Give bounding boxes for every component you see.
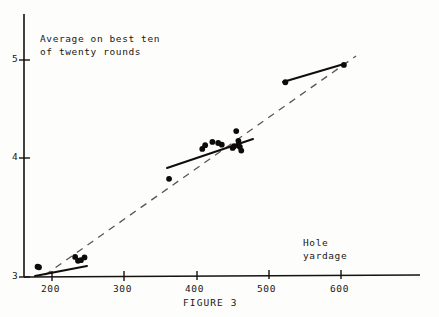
data-point xyxy=(219,142,225,148)
figure-container: 5 4 3 200 300 400 500 600 Average on bes… xyxy=(0,0,439,317)
y-tick-label-5: 5 xyxy=(12,53,18,66)
data-point xyxy=(166,176,172,182)
data-point xyxy=(233,128,239,134)
data-points-layer xyxy=(35,62,347,270)
x-tick-label-400: 400 xyxy=(185,283,204,296)
x-tick-label-500: 500 xyxy=(257,283,276,296)
y-tick-label-3: 3 xyxy=(12,270,18,283)
data-point xyxy=(282,79,288,85)
x-tick-label-300: 300 xyxy=(113,283,132,296)
figure-caption: FIGURE 3 xyxy=(183,297,238,310)
y-axis-title-line2: of twenty rounds xyxy=(40,46,141,57)
data-point xyxy=(210,139,216,145)
x-tick-label-600: 600 xyxy=(330,283,349,296)
data-point xyxy=(341,62,347,68)
x-axis-title-line2: yardage xyxy=(303,250,347,261)
x-axis-title-line1: Hole xyxy=(303,237,328,248)
y-axis-title: Average on best tenof twenty rounds xyxy=(40,33,160,58)
data-point xyxy=(36,264,42,270)
y-axis-title-line1: Average on best ten xyxy=(40,33,160,44)
x-axis-line xyxy=(24,275,420,277)
data-point xyxy=(82,255,88,261)
group-regression-lines xyxy=(35,64,344,276)
data-point xyxy=(238,148,244,154)
x-tick-label-200: 200 xyxy=(41,283,60,296)
y-tick-label-4: 4 xyxy=(12,151,18,164)
data-point xyxy=(202,142,208,148)
x-axis-title: Holeyardage xyxy=(303,237,347,262)
fit-line-par3 xyxy=(35,266,87,276)
fit-line-par5 xyxy=(283,64,344,82)
